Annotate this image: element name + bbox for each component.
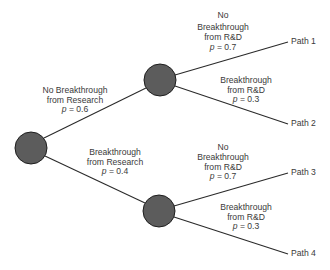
outcome-path-4: Path 4 bbox=[291, 248, 316, 258]
outcome-path-2: Path 2 bbox=[291, 118, 316, 128]
label-line: from R&D bbox=[227, 212, 265, 222]
probability-label: p = 0.3 bbox=[232, 94, 260, 104]
breakthrough-chance-node bbox=[143, 195, 175, 227]
branch-label-rd-bottom-yes: Breakthrough from R&D p = 0.3 bbox=[220, 202, 272, 231]
branch-label-rd-top-yes: Breakthrough from R&D p = 0.3 bbox=[220, 75, 272, 104]
probability-label: p = 0.7 bbox=[209, 171, 237, 181]
branch-label-rd-bottom-no: No Breakthrough from R&D p = 0.7 bbox=[197, 142, 249, 181]
outcome-labels: Path 1 Path 2 Path 3 Path 4 bbox=[291, 36, 316, 258]
edge-bottom-to-path-4 bbox=[174, 217, 288, 254]
label-line: from R&D bbox=[204, 162, 242, 172]
probability-label: p = 0.7 bbox=[209, 42, 237, 52]
label-line: No Breakthrough bbox=[43, 85, 108, 95]
label-line: Breakthrough bbox=[197, 152, 249, 162]
label-line: No bbox=[218, 142, 229, 152]
label-line: from R&D bbox=[227, 85, 265, 95]
label-line: Breakthrough bbox=[220, 202, 272, 212]
branch-label-research-yes: Breakthrough from Research p = 0.4 bbox=[87, 147, 144, 176]
branch-label-rd-top-no: No Breakthrough from R&D p = 0.7 bbox=[197, 10, 249, 52]
label-line: from Research bbox=[87, 157, 144, 167]
label-line: from R&D bbox=[204, 32, 242, 42]
probability-label: p = 0.6 bbox=[61, 104, 89, 114]
root-chance-node bbox=[15, 132, 47, 164]
no-breakthrough-chance-node bbox=[144, 64, 176, 96]
probability-label: p = 0.4 bbox=[101, 166, 129, 176]
outcome-path-1: Path 1 bbox=[291, 36, 316, 46]
label-line: from Research bbox=[47, 95, 104, 105]
label-line: Breakthrough bbox=[220, 75, 272, 85]
label-line: Breakthrough bbox=[197, 22, 249, 32]
decision-tree-diagram: No Breakthrough from Research p = 0.6 Br… bbox=[0, 0, 330, 270]
branch-label-research-no: No Breakthrough from Research p = 0.6 bbox=[43, 85, 108, 114]
probability-label: p = 0.3 bbox=[232, 221, 260, 231]
label-line: Breakthrough bbox=[89, 147, 141, 157]
outcome-path-3: Path 3 bbox=[291, 167, 316, 177]
label-line: No bbox=[218, 10, 229, 20]
